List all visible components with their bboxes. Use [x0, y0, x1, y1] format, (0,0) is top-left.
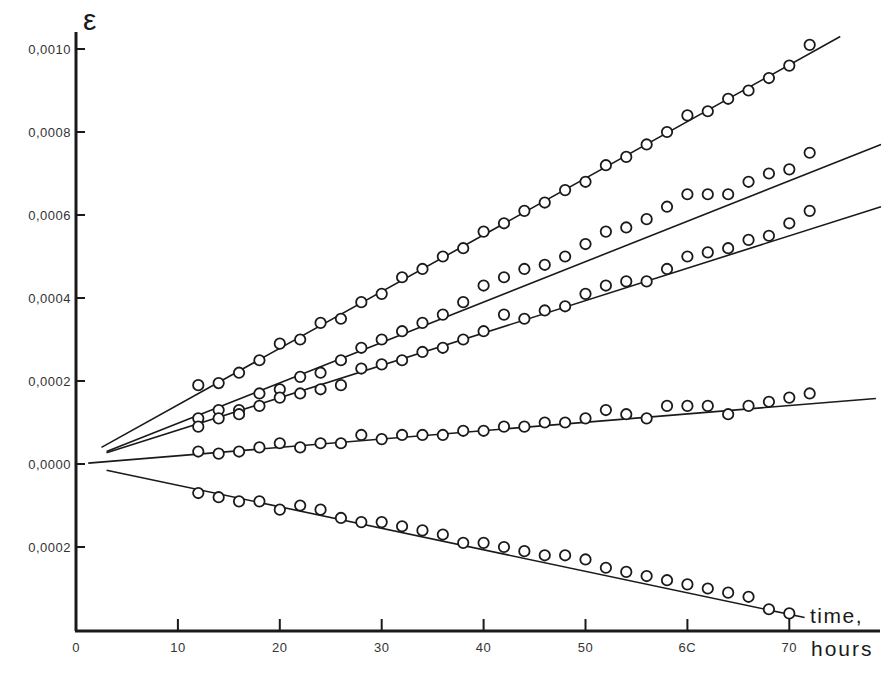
- series-4-point: [499, 421, 509, 431]
- x-tick-label: 30: [374, 640, 389, 655]
- series-4-point: [723, 409, 733, 419]
- series-4-point: [784, 392, 794, 402]
- series-1-point: [295, 334, 305, 344]
- series-2-point: [417, 318, 427, 328]
- series-5-point: [621, 567, 631, 577]
- series-3-point: [458, 334, 468, 344]
- series-4-point: [213, 448, 223, 458]
- series-5-point: [193, 488, 203, 498]
- series-2-point: [377, 334, 387, 344]
- series-1-point: [621, 152, 631, 162]
- series-3-point: [540, 305, 550, 315]
- y-tick-label: 0,0004: [28, 291, 71, 306]
- series-4-point: [478, 426, 488, 436]
- series-4-point: [315, 438, 325, 448]
- series-5-point: [275, 504, 285, 514]
- series-2-point: [641, 214, 651, 224]
- series-5-point: [377, 517, 387, 527]
- series-1-point: [213, 378, 223, 388]
- series-5-point: [438, 529, 448, 539]
- series-5-point: [703, 583, 713, 593]
- series-1-point: [356, 297, 366, 307]
- series-4-point: [234, 446, 244, 456]
- y-tick-label: 0,0002: [28, 540, 71, 555]
- series-5-point: [356, 517, 366, 527]
- series-3-point: [193, 421, 203, 431]
- series-2-point: [703, 189, 713, 199]
- series-2-point: [560, 251, 570, 261]
- series-2-point: [478, 280, 488, 290]
- series-1-point: [458, 243, 468, 253]
- series-5-point: [723, 587, 733, 597]
- series-3-point: [275, 392, 285, 402]
- series-2-point: [458, 297, 468, 307]
- series-3-point: [784, 218, 794, 228]
- series-3-point: [336, 380, 346, 390]
- series-1-point: [743, 85, 753, 95]
- series-3-point: [499, 309, 509, 319]
- series-2-point: [723, 189, 733, 199]
- series-1-point: [703, 106, 713, 116]
- x-axis-label-hours: hours: [811, 637, 874, 660]
- series-4-point: [703, 401, 713, 411]
- x-tick-label: 0: [72, 640, 80, 655]
- series-3-point: [519, 314, 529, 324]
- series-2-point: [784, 164, 794, 174]
- series-1-point: [254, 355, 264, 365]
- series-1-point: [804, 40, 814, 50]
- series-1-point: [784, 60, 794, 70]
- series-5-fit-line: [107, 470, 805, 617]
- series-1-point: [580, 177, 590, 187]
- series-5-point: [764, 604, 774, 614]
- series-2-point: [621, 222, 631, 232]
- series-4-point: [580, 413, 590, 423]
- series-5-point: [315, 504, 325, 514]
- series-1-point: [478, 226, 488, 236]
- series-4-point: [540, 417, 550, 427]
- series-1-point: [499, 218, 509, 228]
- series-3-point: [417, 347, 427, 357]
- y-tick-label: 0,0002: [28, 374, 71, 389]
- series-4-point: [560, 417, 570, 427]
- series-2-point: [764, 168, 774, 178]
- series-4-point: [519, 421, 529, 431]
- series-4-point: [193, 446, 203, 456]
- y-tick-label: 0,0000: [28, 457, 71, 472]
- series-5-point: [519, 546, 529, 556]
- series-1-point: [275, 338, 285, 348]
- series-5-point: [213, 492, 223, 502]
- series-5-point: [662, 575, 672, 585]
- series-4-point: [682, 401, 692, 411]
- series-2-point: [743, 177, 753, 187]
- x-axis-label-time: time,: [810, 604, 863, 627]
- series-1-point: [377, 289, 387, 299]
- series-4-point: [743, 401, 753, 411]
- series-3-point: [478, 326, 488, 336]
- series-2-point: [519, 264, 529, 274]
- series-3-point: [560, 301, 570, 311]
- series-5-point: [234, 496, 244, 506]
- series-3-point: [580, 289, 590, 299]
- y-tick-label: 0,0006: [28, 208, 71, 223]
- series-1-point: [315, 318, 325, 328]
- series-5-point: [478, 538, 488, 548]
- series-2-point: [295, 372, 305, 382]
- x-tick-label: 40: [476, 640, 491, 655]
- series-4-point: [458, 426, 468, 436]
- series-3-point: [377, 359, 387, 369]
- series-4-point: [397, 430, 407, 440]
- series-4-point: [295, 442, 305, 452]
- series-3-point: [662, 264, 672, 274]
- series-3-point: [764, 231, 774, 241]
- data-points: [193, 40, 815, 619]
- series-5-point: [580, 554, 590, 564]
- series-4-point: [336, 438, 346, 448]
- series-3-point: [682, 251, 692, 261]
- series-4-point: [254, 442, 264, 452]
- series-5-point: [458, 538, 468, 548]
- y-axis-label: ε: [83, 3, 96, 36]
- x-tick-label: 10: [170, 640, 185, 655]
- series-3-point: [213, 413, 223, 423]
- series-5-point: [417, 525, 427, 535]
- series-4-point: [417, 430, 427, 440]
